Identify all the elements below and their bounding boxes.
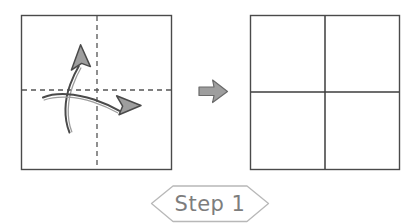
after-panel (251, 16, 400, 170)
transition-arrow (199, 80, 228, 103)
transition-arrow-shape (199, 80, 228, 103)
origami-step-diagram: Step 1 (0, 0, 419, 224)
step-banner-label: Step 1 (175, 192, 246, 216)
step-banner: Step 1 (152, 186, 269, 222)
diagram-canvas: Step 1 (0, 0, 419, 224)
before-panel (22, 16, 172, 170)
